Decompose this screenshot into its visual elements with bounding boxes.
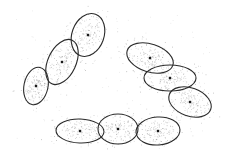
- data-point: [44, 80, 45, 81]
- data-point: [78, 41, 79, 42]
- data-point: [118, 124, 119, 125]
- data-point: [191, 97, 192, 98]
- data-point: [80, 44, 81, 45]
- data-point: [65, 31, 66, 32]
- data-point: [72, 136, 73, 137]
- data-point: [81, 51, 82, 52]
- data-point: [116, 141, 117, 142]
- data-point: [51, 56, 52, 57]
- data-point: [102, 130, 103, 131]
- data-point: [168, 61, 169, 62]
- data-point: [67, 50, 68, 51]
- data-point: [200, 106, 201, 107]
- data-point: [162, 52, 163, 53]
- data-point: [66, 130, 67, 131]
- data-point: [48, 73, 49, 74]
- noise-point: [21, 101, 22, 102]
- data-point: [68, 65, 69, 66]
- data-point: [154, 132, 155, 133]
- data-point: [95, 138, 96, 139]
- data-point: [140, 87, 141, 88]
- data-point: [161, 59, 162, 60]
- data-point: [176, 76, 177, 77]
- noise-point: [143, 37, 144, 38]
- data-point: [173, 111, 174, 112]
- data-point: [72, 127, 73, 128]
- data-point: [66, 57, 67, 58]
- data-point: [81, 147, 82, 148]
- data-point: [67, 135, 68, 136]
- data-point: [162, 71, 163, 72]
- data-point: [125, 137, 126, 138]
- data-point: [106, 17, 107, 18]
- data-point: [83, 128, 84, 129]
- data-point: [140, 138, 141, 139]
- point-cloud: [13, 6, 220, 149]
- data-point: [159, 135, 160, 136]
- data-point: [124, 129, 125, 130]
- data-point: [44, 78, 45, 79]
- data-point: [187, 110, 188, 111]
- data-point: [185, 92, 186, 93]
- noise-point: [203, 54, 204, 55]
- data-point: [57, 129, 58, 130]
- data-point: [150, 71, 151, 72]
- data-point: [126, 71, 127, 72]
- data-point: [153, 57, 154, 58]
- data-point: [56, 50, 57, 51]
- data-point: [56, 140, 57, 141]
- data-point: [55, 50, 56, 51]
- noise-point: [17, 75, 18, 76]
- noise-point: [150, 17, 151, 18]
- data-point: [175, 79, 176, 80]
- data-point: [157, 133, 158, 134]
- data-point: [80, 22, 81, 23]
- data-point: [140, 53, 141, 54]
- data-point: [117, 136, 118, 137]
- data-point: [124, 123, 125, 124]
- data-point: [74, 124, 75, 125]
- data-point: [198, 93, 199, 94]
- data-point: [80, 38, 81, 39]
- data-point: [161, 129, 162, 130]
- data-point: [126, 128, 127, 129]
- data-point: [155, 64, 156, 65]
- data-point: [147, 54, 148, 55]
- data-point: [140, 60, 141, 61]
- cluster-center-marker: [79, 130, 81, 132]
- data-point: [88, 126, 89, 127]
- data-point: [101, 39, 102, 40]
- data-point: [35, 91, 36, 92]
- data-point: [59, 56, 60, 57]
- data-point: [91, 32, 92, 33]
- data-point: [78, 134, 79, 135]
- data-point: [193, 105, 194, 106]
- data-point: [65, 42, 66, 43]
- data-point: [50, 74, 51, 75]
- data-point: [61, 50, 62, 51]
- data-point: [44, 74, 45, 75]
- data-point: [201, 123, 202, 124]
- data-point: [149, 135, 150, 136]
- data-point: [28, 78, 29, 79]
- data-point: [44, 79, 45, 80]
- data-point: [181, 94, 182, 95]
- data-point: [32, 82, 33, 83]
- data-point: [189, 98, 190, 99]
- noise-point: [171, 23, 172, 24]
- data-point: [193, 95, 194, 96]
- noise-point: [97, 116, 98, 117]
- noise-point: [193, 37, 194, 38]
- data-point: [176, 117, 177, 118]
- data-point: [95, 33, 96, 34]
- data-point: [36, 76, 37, 77]
- data-point: [160, 141, 161, 142]
- noise-point: [102, 10, 103, 11]
- data-point: [56, 83, 57, 84]
- data-point: [152, 62, 153, 63]
- data-point: [151, 74, 152, 75]
- data-point: [183, 74, 184, 75]
- data-point: [94, 115, 95, 116]
- data-point: [199, 100, 200, 101]
- data-point: [155, 130, 156, 131]
